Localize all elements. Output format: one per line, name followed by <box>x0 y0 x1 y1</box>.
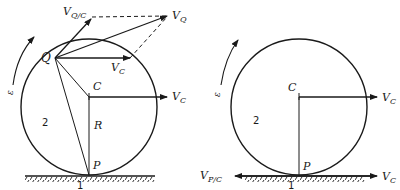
vector-v-q <box>55 16 167 58</box>
label-v-qc: VQ/C <box>63 5 86 20</box>
label-q: Q <box>41 51 51 65</box>
label-contact-point: P <box>302 160 311 173</box>
line-qc <box>55 58 89 97</box>
label-contact-point: P <box>92 159 101 172</box>
label-ground-1: 1 <box>77 180 83 190</box>
label-v-q: VQ <box>172 9 187 24</box>
label-v-c: VC <box>382 91 396 106</box>
label-v-c-inner: VC <box>111 61 125 76</box>
dashed-line-top <box>92 16 166 17</box>
label-ground-1: 1 <box>288 180 294 190</box>
label-body-2: 2 <box>42 117 48 128</box>
label-radius: R <box>93 119 102 132</box>
label-omega: ε <box>212 92 222 97</box>
ground-surface <box>25 176 155 182</box>
label-body-2: 2 <box>253 115 259 126</box>
label-c: C <box>288 81 297 94</box>
left-diagram: VQ/C VQ Q VC C VC ε 2 R P 1 <box>5 5 187 190</box>
angular-velocity-arrow <box>221 40 238 85</box>
label-c: C <box>93 80 102 93</box>
line-qp <box>55 58 89 175</box>
label-v-c-ground: VC <box>382 170 396 185</box>
ground-surface <box>236 176 376 182</box>
right-diagram: C VC ε 2 P VP/C VC 1 <box>200 39 396 190</box>
label-omega: ε <box>5 90 15 95</box>
rolling-wheel-figure: VQ/C VQ Q VC C VC ε 2 R P 1 C VC ε 2 P V… <box>0 0 400 190</box>
label-v-c-outer: VC <box>172 90 186 105</box>
label-v-pc: VP/C <box>200 169 222 184</box>
angular-velocity-arrow <box>13 37 34 85</box>
